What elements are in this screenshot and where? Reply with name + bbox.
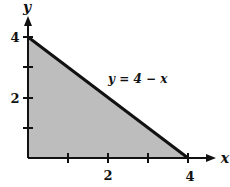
x-axis-label: x [220, 150, 230, 166]
x-tick-label-4: 4 [185, 169, 194, 184]
chart: 2 4 2 4 x y y = 4 − x [0, 0, 230, 187]
y-tick-label-4: 4 [10, 30, 19, 45]
y-tick-label-2: 2 [10, 91, 19, 106]
y-axis-arrow-icon [24, 16, 32, 26]
x-axis-arrow-icon [206, 154, 216, 162]
curve-label: y = 4 − x [107, 72, 168, 86]
y-axis-label: y [22, 0, 32, 15]
x-tick-label-2: 2 [103, 168, 112, 183]
